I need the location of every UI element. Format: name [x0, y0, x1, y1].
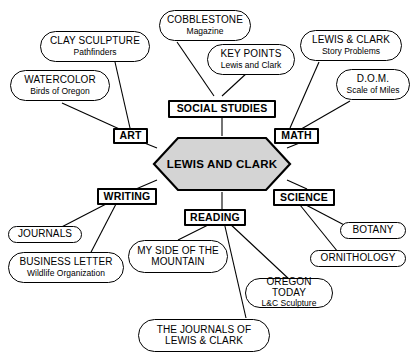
center-node-label: LEWIS AND CLARK: [152, 136, 292, 192]
edge-math-lewis-clark-story: [290, 62, 319, 128]
leaf-title-lewis-clark-story: LEWIS & CLARK: [312, 35, 390, 46]
edge-art-clay-sculpture: [115, 62, 130, 128]
leaf-node-botany[interactable]: BOTANY: [340, 222, 406, 239]
subject-node-math[interactable]: MATH: [274, 128, 319, 144]
leaf-title-dom: D.O.M.: [357, 74, 389, 85]
subject-label-social-studies: SOCIAL STUDIES: [177, 103, 268, 114]
subject-label-math: MATH: [281, 130, 311, 141]
leaf-node-key-points[interactable]: KEY POINTS Lewis and Clark: [207, 44, 295, 75]
subject-node-social-studies[interactable]: SOCIAL STUDIES: [168, 100, 276, 118]
leaf-title-watercolor: WATERCOLOR: [24, 75, 96, 86]
subject-label-reading: READING: [190, 212, 240, 223]
edge-reading-journals-of-lc: [224, 222, 246, 318]
edge-writing-business-letter: [88, 204, 116, 258]
leaf-subtitle-clay-sculpture: Pathfinders: [74, 48, 117, 57]
leaf-node-cobblestone[interactable]: COBBLESTONE Magazine: [159, 10, 251, 41]
edge-reading-oregon-today: [228, 222, 290, 280]
subject-label-science: SCIENCE: [280, 192, 328, 203]
edge-social-studies-key-points: [222, 72, 248, 96]
mindmap-canvas: LEWIS AND CLARK ART SOCIAL STUDIES MATH …: [0, 0, 414, 361]
leaf-title-oregon-today: OREGON TODAY: [252, 277, 326, 299]
subject-node-reading[interactable]: READING: [184, 209, 246, 226]
center-node-lewis-and-clark: LEWIS AND CLARK: [152, 136, 292, 192]
subject-node-art[interactable]: ART: [113, 128, 148, 144]
leaf-title-ornithology: ORNITHOLOGY: [321, 253, 396, 264]
subject-label-art: ART: [119, 130, 141, 141]
leaf-node-journals[interactable]: JOURNALS: [8, 226, 82, 243]
leaf-title-botany: BOTANY: [353, 225, 394, 236]
leaf-node-watercolor[interactable]: WATERCOLOR Birds of Oregon: [10, 70, 110, 101]
leaf-node-my-side-of-the-mountain[interactable]: MY SIDE OF THE MOUNTAIN: [128, 240, 228, 273]
leaf-node-business-letter[interactable]: BUSINESS LETTER Wildlife Organization: [8, 252, 124, 283]
leaf-subtitle-business-letter: Wildlife Organization: [27, 269, 105, 278]
leaf-node-ornithology[interactable]: ORNITHOLOGY: [310, 250, 406, 267]
leaf-subtitle-watercolor: Birds of Oregon: [30, 87, 90, 96]
subject-node-science[interactable]: SCIENCE: [273, 189, 335, 206]
leaf-title-business-letter: BUSINESS LETTER: [19, 257, 112, 268]
leaf-title-my-side-of-the-mountain: MY SIDE OF THE MOUNTAIN: [137, 246, 219, 268]
leaf-node-dom[interactable]: D.O.M. Scale of Miles: [336, 69, 410, 100]
leaf-subtitle-lewis-clark-story: Story Problems: [322, 47, 380, 56]
leaf-node-journals-of-lewis-and-clark[interactable]: THE JOURNALS OF LEWIS & CLARK: [138, 319, 270, 352]
leaf-subtitle-key-points: Lewis and Clark: [221, 61, 281, 70]
leaf-title-journals: JOURNALS: [18, 229, 72, 240]
leaf-subtitle-cobblestone: Magazine: [187, 27, 224, 36]
leaf-title-cobblestone: COBBLESTONE: [167, 15, 243, 26]
subject-node-writing[interactable]: WRITING: [97, 188, 157, 205]
leaf-title-journals-of-lewis-and-clark: THE JOURNALS OF LEWIS & CLARK: [157, 325, 251, 347]
leaf-title-key-points: KEY POINTS: [221, 49, 282, 60]
subject-label-writing: WRITING: [104, 191, 151, 202]
edge-social-studies-cobblestone: [177, 42, 214, 96]
leaf-subtitle-dom: Scale of Miles: [347, 86, 400, 95]
leaf-node-oregon-today[interactable]: OREGON TODAY L&C Sculpture: [245, 278, 333, 308]
leaf-title-clay-sculpture: CLAY SCULPTURE: [50, 36, 140, 47]
leaf-node-lewis-clark-story[interactable]: LEWIS & CLARK Story Problems: [300, 30, 402, 61]
leaf-node-clay-sculpture[interactable]: CLAY SCULPTURE Pathfinders: [40, 31, 150, 62]
leaf-subtitle-oregon-today: L&C Sculpture: [262, 299, 317, 308]
